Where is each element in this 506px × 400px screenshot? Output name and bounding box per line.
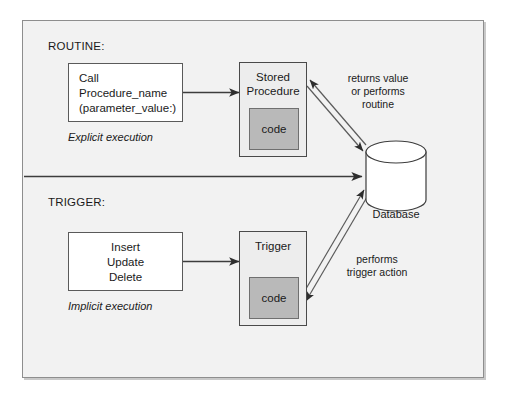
implicit-execution-note: Implicit execution [68,300,152,312]
section-label-trigger: TRIGGER: [48,196,105,208]
dml-event-box: Insert Update Delete [68,232,183,291]
call-line-1: Call [79,71,176,86]
dml-event-text: Insert Update Delete [69,240,182,285]
stored-procedure-box: Stored Procedure code [239,62,307,157]
trigger-action-line-2: trigger action [322,266,432,279]
stored-procedure-title-line-1: Stored [240,70,306,84]
trigger-box-title: Trigger [240,239,306,253]
stored-procedure-title: Stored Procedure [240,70,306,98]
database-label: Database [366,208,426,220]
performs-trigger-action-label: performs trigger action [322,253,432,279]
dml-line-2: Update [69,255,182,270]
diagram-canvas: ROUTINE: Call Procedure_name (parameter_… [0,0,506,400]
dml-line-1: Insert [69,240,182,255]
trigger-box: Trigger code [239,231,307,326]
explicit-execution-note: Explicit execution [68,131,153,143]
call-line-2: Procedure_name [79,86,176,101]
returns-value-line-3: routine [330,98,426,111]
dml-line-3: Delete [69,270,182,285]
returns-value-line-2: or performs [330,85,426,98]
section-label-routine: ROUTINE: [48,40,105,52]
returns-value-label: returns value or performs routine [330,72,426,111]
trigger-code-box: code [249,277,299,319]
trigger-action-line-1: performs [322,253,432,266]
call-procedure-text: Call Procedure_name (parameter_value:) [79,71,176,116]
returns-value-line-1: returns value [330,72,426,85]
stored-procedure-code-box: code [249,108,299,150]
call-line-3: (parameter_value:) [79,101,176,116]
call-procedure-box: Call Procedure_name (parameter_value:) [68,63,183,122]
stored-procedure-title-line-2: Procedure [240,84,306,98]
